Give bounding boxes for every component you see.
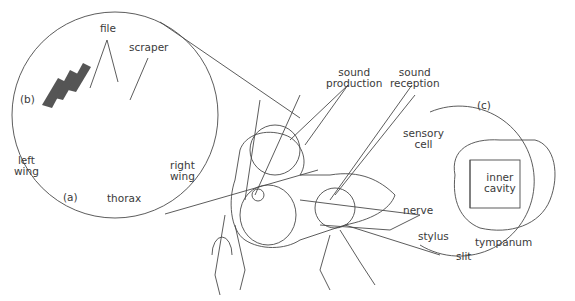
label-sensory-cell: sensory cell — [403, 128, 444, 150]
diagram-figure: file scraper (b) left wing right wing (a… — [0, 0, 575, 301]
magnifier-circle-left — [12, 12, 218, 218]
label-sound-production: sound production — [326, 67, 382, 89]
label-right-wing: right wing — [170, 160, 195, 182]
panel-label-c: (c) — [477, 100, 491, 111]
diagram-artwork — [0, 0, 575, 301]
panel-label-b: (b) — [20, 94, 35, 105]
label-sound-reception: sound reception — [390, 67, 440, 89]
label-scraper: scraper — [129, 42, 168, 53]
label-slit: slit — [456, 251, 471, 262]
label-tympanum: tympanum — [475, 237, 532, 248]
panel-label-a: (a) — [63, 192, 78, 203]
label-stylus: stylus — [418, 231, 449, 242]
label-left-wing: left wing — [14, 155, 39, 177]
label-file: file — [100, 23, 116, 34]
label-thorax: thorax — [107, 193, 141, 204]
label-inner-cavity: inner cavity — [484, 172, 516, 194]
label-nerve: nerve — [403, 205, 433, 216]
